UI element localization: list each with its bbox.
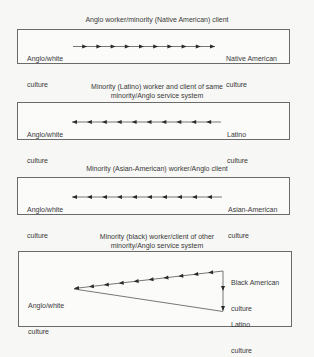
native-american-label-line1: Native American (226, 55, 277, 64)
panel-3-title: Minority (Asian-American) worker/Anglo c… (0, 164, 314, 173)
anglo-label-line1: Anglo/white (28, 302, 64, 311)
anglo-label-line1: Anglo/white (27, 206, 63, 215)
panel-2-title: Minority (Latino) worker and client of s… (0, 82, 314, 100)
latino-label-line2: culture (231, 347, 252, 356)
panel-4-title-line1: Minority (black) worker/client of other (0, 232, 314, 241)
latino-label-line1: Latino (231, 321, 252, 330)
asian-american-label-line1: Asian-American (228, 206, 277, 215)
anglo-label-line1: Anglo/white (27, 131, 63, 140)
anglo-label-line1: Anglo/white (27, 55, 63, 64)
panel-2-title-line1: Minority (Latino) worker and client of s… (0, 82, 314, 91)
panel-1-title: Anglo worker/minority (Native American) … (0, 15, 314, 24)
panel-4-latino-label: Latino culture (231, 304, 252, 357)
black-american-label-line1: Black American (231, 279, 279, 288)
anglo-label-line2: culture (28, 328, 64, 337)
latino-label-line1: Latino (227, 131, 248, 140)
panel-4-anglo-label: Anglo/white culture (28, 285, 64, 345)
panel-2-title-line2: minority/Anglo service system (0, 91, 314, 100)
panel-4-title-line2: minority/Anglo service system (0, 241, 314, 250)
panel-4-title: Minority (black) worker/client of other … (0, 232, 314, 250)
